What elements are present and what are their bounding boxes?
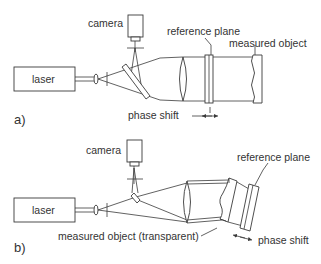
laser-a: laser [14, 67, 75, 91]
camera-b: camera [86, 140, 143, 193]
laser-b: laser [14, 198, 75, 222]
diagram-b: laser camera [14, 140, 310, 255]
measured-object-a-label: measured object [229, 37, 307, 49]
laser-a-label: laser [32, 73, 55, 85]
laser-b-label: laser [32, 204, 55, 216]
phase-shift-a-label: phase shift [128, 109, 179, 121]
panel-label-a: a) [14, 112, 26, 127]
measured-object-b: measured object (transparent) [58, 178, 237, 242]
phase-shift-b-label: phase shift [258, 234, 309, 246]
camera-a-label: camera [88, 17, 123, 29]
reference-plane-a-label: reference plane [167, 25, 240, 37]
phase-shift-b: phase shift [233, 234, 309, 246]
camera-b-label: camera [86, 144, 121, 156]
reference-plane-b: reference plane [237, 151, 310, 231]
small-lens-b-icon [94, 205, 98, 215]
phase-shift-a: phase shift [128, 107, 218, 121]
panel-label-b: b) [14, 240, 26, 255]
measured-object-b-label: measured object (transparent) [58, 230, 199, 242]
beam-splitter-b [131, 193, 140, 203]
diagram-a: laser camera [14, 15, 307, 127]
small-lens-a-icon [94, 74, 98, 84]
measured-object-a: measured object [229, 37, 307, 103]
big-lens-a-icon [180, 57, 187, 101]
beam-splitter-a [122, 64, 150, 99]
reference-plane-b-label: reference plane [237, 151, 310, 163]
big-lens-b-icon [184, 181, 191, 223]
